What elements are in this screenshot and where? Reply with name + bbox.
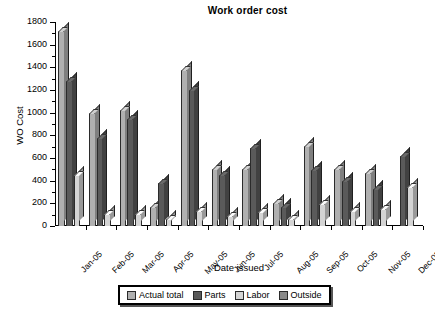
bar-side-face	[202, 202, 207, 221]
legend-swatch-icon	[193, 291, 202, 300]
legend-item-label: Actual total	[139, 290, 184, 300]
bar	[212, 169, 219, 226]
legend-item[interactable]: Parts	[193, 290, 226, 300]
bar	[181, 70, 188, 226]
bar-side-face	[256, 139, 261, 221]
y-tick: 800	[50, 135, 55, 136]
x-tick	[116, 226, 117, 230]
bar	[258, 212, 265, 226]
bar	[120, 110, 127, 226]
legend-item-label: Outside	[291, 290, 322, 300]
chart-legend: Actual totalPartsLaborOutside	[118, 285, 331, 305]
bar	[273, 203, 280, 226]
bar	[373, 189, 380, 226]
legend-item[interactable]: Outside	[279, 290, 322, 300]
y-minor-tick	[52, 192, 55, 193]
x-tick	[362, 226, 363, 230]
x-tick	[270, 226, 271, 230]
y-tick: 200	[50, 203, 55, 204]
y-axis-line	[55, 22, 56, 226]
bar-side-face	[263, 203, 268, 221]
bar-side-face	[386, 200, 391, 221]
y-minor-tick	[52, 56, 55, 57]
bar	[150, 207, 157, 226]
bar	[288, 219, 295, 226]
x-axis-title: Date issued	[55, 262, 423, 273]
y-minor-tick	[52, 101, 55, 102]
legend-item[interactable]: Actual total	[127, 290, 184, 300]
x-tick	[392, 226, 393, 230]
y-tick: 1400	[50, 67, 55, 68]
bar	[135, 214, 142, 226]
y-minor-tick	[52, 124, 55, 125]
bar	[250, 148, 257, 226]
bar	[89, 113, 96, 226]
y-minor-tick	[52, 169, 55, 170]
y-minor-tick	[52, 215, 55, 216]
y-tick: 600	[50, 158, 55, 159]
bar-side-face	[102, 129, 107, 221]
legend-item[interactable]: Labor	[235, 290, 270, 300]
y-minor-tick	[52, 147, 55, 148]
legend-swatch-icon	[235, 291, 244, 300]
y-tick: 1600	[50, 45, 55, 46]
y-tick-label: 1000	[17, 107, 47, 117]
y-tick-label: 800	[17, 129, 47, 139]
y-tick-label: 1600	[17, 39, 47, 49]
work-order-cost-chart: Work order cost WO Cost 0200400600800100…	[0, 0, 435, 315]
bar-side-face	[133, 110, 138, 221]
bar	[350, 211, 357, 226]
bar	[304, 146, 311, 226]
bar	[127, 119, 134, 226]
y-tick-label: 600	[17, 152, 47, 162]
legend-swatch-icon	[127, 291, 136, 300]
bar	[342, 181, 349, 226]
y-tick-label: 1800	[17, 16, 47, 26]
x-tick	[147, 226, 148, 230]
bar	[242, 169, 249, 226]
x-tick	[86, 226, 87, 230]
bar-side-face	[225, 166, 230, 221]
bar	[334, 169, 341, 226]
bar	[66, 81, 73, 226]
bar-side-face	[194, 81, 199, 221]
legend-swatch-icon	[279, 291, 288, 300]
x-tick	[208, 226, 209, 230]
y-tick: 400	[50, 181, 55, 182]
y-tick-label: 0	[17, 220, 47, 230]
bar	[166, 219, 173, 226]
x-tick	[300, 226, 301, 230]
bar	[227, 216, 234, 226]
y-minor-tick	[52, 79, 55, 80]
y-tick: 1000	[50, 113, 55, 114]
bar	[189, 90, 196, 226]
x-tick	[331, 226, 332, 230]
bar	[407, 187, 414, 226]
bar-side-face	[355, 202, 360, 221]
y-tick: 0	[50, 226, 55, 227]
legend-item-label: Parts	[205, 290, 226, 300]
legend-item-label: Labor	[247, 290, 270, 300]
bar	[365, 173, 372, 226]
bar	[400, 156, 407, 226]
bar	[281, 207, 288, 226]
bar	[311, 170, 318, 226]
x-tick	[178, 226, 179, 230]
bar	[74, 175, 81, 226]
bar	[97, 138, 104, 226]
bar	[380, 209, 387, 226]
bar	[104, 214, 111, 226]
x-tick	[239, 226, 240, 230]
y-tick-label: 200	[17, 197, 47, 207]
chart-title: Work order cost	[0, 5, 435, 16]
y-minor-tick	[52, 33, 55, 34]
y-tick-label: 1400	[17, 61, 47, 71]
y-tick: 1800	[50, 22, 55, 23]
y-tick: 1200	[50, 90, 55, 91]
y-tick-label: 400	[17, 175, 47, 185]
bar	[158, 183, 165, 226]
bar	[58, 31, 65, 226]
bar	[319, 204, 326, 226]
bar	[196, 211, 203, 226]
plot-area: 020040060080010001200140016001800 Jan-05…	[55, 22, 423, 226]
